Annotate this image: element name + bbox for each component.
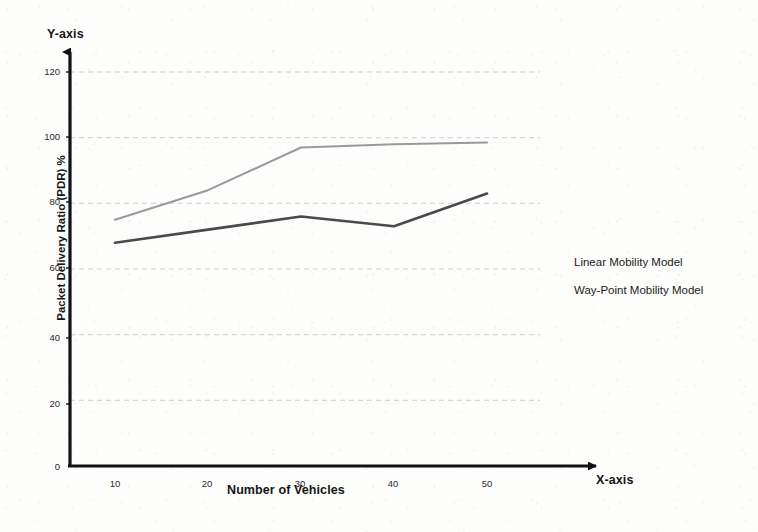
series-line-way-point-mobility-model <box>115 143 487 220</box>
series-line-linear-mobility-model <box>115 194 487 243</box>
legend-item-way-point-mobility-model[interactable]: Way-Point Mobility Model <box>541 279 753 300</box>
y-axis-name-label: Y-axis <box>47 27 84 41</box>
x-axis-title: Number of Vehicles <box>227 483 345 497</box>
gridlines <box>70 72 540 400</box>
x-tick-label-40: 40 <box>378 478 408 489</box>
legend-label-way-point-mobility-model: Way-Point Mobility Model <box>574 284 703 296</box>
chart-legend: Linear Mobility Model Way-Point Mobility… <box>541 251 753 307</box>
x-tick-label-50: 50 <box>472 478 502 489</box>
y-axis-title: Packet Delivery Ratio (PDR) % <box>55 133 67 343</box>
chart-figure: 120 100 80 60 40 20 0 10 20 30 40 50 Y-a… <box>0 0 758 532</box>
y-tick-label-20: 20 <box>34 398 60 409</box>
x-axis-name-label: X-axis <box>596 473 633 487</box>
x-tick-label-10: 10 <box>100 478 130 489</box>
y-tick-label-0: 0 <box>34 461 60 472</box>
y-tick-label-120: 120 <box>34 66 60 77</box>
legend-label-linear-mobility-model: Linear Mobility Model <box>574 256 683 268</box>
legend-item-linear-mobility-model[interactable]: Linear Mobility Model <box>541 251 753 272</box>
x-tick-label-20: 20 <box>192 478 222 489</box>
